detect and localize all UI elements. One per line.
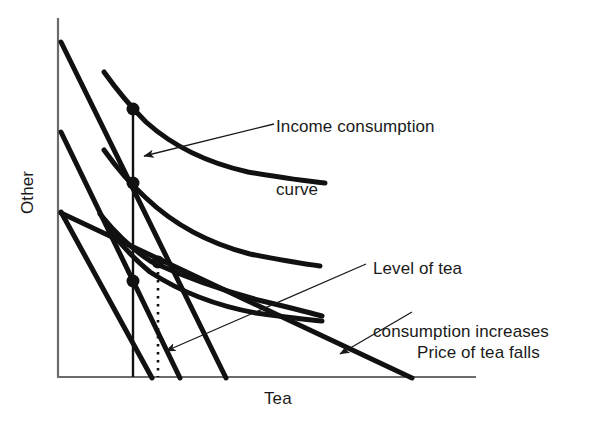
tangency-point-3 [152, 256, 165, 269]
arrow-income-consumption-curve [144, 124, 274, 156]
annotation-price-of-tea-falls: Price of tea falls [417, 300, 540, 405]
indifference-curve-figure: Income consumption curve Level of tea co… [0, 0, 603, 429]
tangency-point-2 [127, 177, 140, 190]
tangency-point-1 [127, 103, 140, 116]
budget-line-1 [61, 42, 226, 378]
annotation-income-consumption-curve-line2: curve [276, 179, 435, 200]
y-axis-label: Other [17, 163, 38, 223]
annotation-level-of-tea-line1: Level of tea [373, 258, 549, 279]
annotation-price-of-tea-falls-line1: Price of tea falls [417, 342, 540, 363]
x-axis-label: Tea [264, 388, 292, 409]
annotation-income-consumption-curve-line1: Income consumption [276, 116, 435, 137]
tangency-point-4 [127, 275, 140, 288]
